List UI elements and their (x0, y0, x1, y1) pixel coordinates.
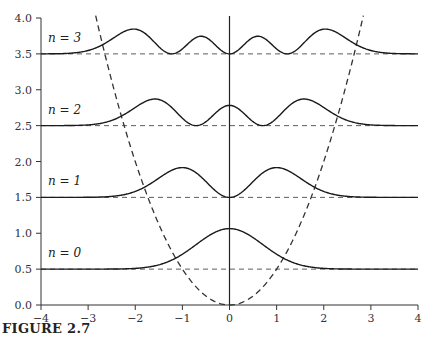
x-tick-label: 2 (320, 312, 327, 325)
y-tick-label: 3.0 (15, 84, 33, 97)
y-tick-label: 4.0 (15, 12, 33, 25)
level-label-n2: n = 2 (48, 103, 81, 117)
level-label-n3: n = 3 (48, 31, 81, 45)
x-tick-label: −1 (174, 312, 190, 325)
figure-caption: FIGURE 2.7 (2, 321, 91, 336)
level-labels: n = 0n = 1n = 2n = 3 (48, 31, 81, 260)
axes: 0.00.51.01.52.02.53.03.54.0−4−3−2−101234 (15, 12, 422, 325)
y-tick-label: 3.5 (15, 48, 33, 61)
quantum-oscillator-chart: 0.00.51.01.52.02.53.03.54.0−4−3−2−101234… (0, 0, 433, 341)
x-tick-label: 4 (415, 312, 422, 325)
x-tick-label: −2 (127, 312, 143, 325)
y-tick-label: 2.0 (15, 156, 33, 169)
y-tick-label: 0.0 (15, 299, 33, 312)
level-label-n1: n = 1 (48, 174, 81, 188)
y-tick-label: 0.5 (15, 263, 33, 276)
y-tick-label: 1.5 (15, 191, 33, 204)
level-label-n0: n = 0 (48, 246, 81, 260)
y-tick-label: 1.0 (15, 227, 33, 240)
y-tick-label: 2.5 (15, 120, 33, 133)
x-tick-label: 0 (226, 312, 233, 325)
x-tick-label: 3 (367, 312, 374, 325)
x-tick-label: 1 (273, 312, 280, 325)
